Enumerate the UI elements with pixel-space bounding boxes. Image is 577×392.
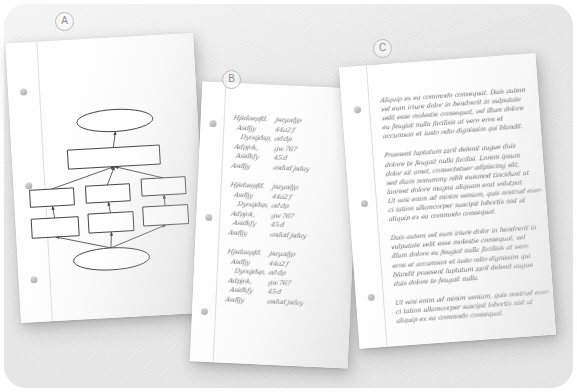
punch-hole <box>368 294 375 301</box>
record-block: Hjsdaepfd.jsayadjpAsdljy44a2 fDyoajdsp,a… <box>231 105 353 167</box>
record-key: Asdljy <box>227 228 247 237</box>
process-right-1 <box>141 177 186 196</box>
record-value: jsayadjp <box>275 116 302 125</box>
record-block: Hjsdaepfd.jsayadjpAsdljy44a2 fDyoajdsp,a… <box>225 239 347 301</box>
record-block: Hjsdaepfd.jsayadjpAsdljy44a2 fDyoajdsp,a… <box>228 172 350 234</box>
record-key: Adpjok, <box>230 209 255 218</box>
punch-hole <box>361 200 368 207</box>
record-key: Adpjok, <box>233 142 258 151</box>
record-value: gw 767 <box>267 278 292 287</box>
record-value: asdad jsday <box>266 297 304 307</box>
document-c-sheet[interactable]: Aliquip ex ea commodo consequat. Duis au… <box>339 53 556 349</box>
record-key: Asdljy <box>230 161 250 170</box>
process-mid-1 <box>85 184 130 203</box>
record-key: Asdljy <box>233 190 253 199</box>
process-top <box>67 145 160 169</box>
record-value: ad dp <box>271 202 290 211</box>
flow-edge <box>110 232 112 248</box>
punch-hole <box>201 308 208 315</box>
record-key: Adpjok, <box>227 276 252 285</box>
record-value: asdad jsday <box>269 230 307 240</box>
record-value: jsayadjp <box>269 250 296 259</box>
record-value: 45 d <box>267 287 282 296</box>
punch-hole <box>209 120 216 127</box>
punch-hole <box>205 214 212 221</box>
process-right-2 <box>143 205 189 226</box>
record-value: 45 d <box>273 154 288 163</box>
paragraph: Duis autem vel eum iriure dolor in hendr… <box>389 224 535 289</box>
record-key: Dyoajdsp, <box>234 267 267 277</box>
paragraph: Praesent luptatum zzril delenit augue du… <box>383 142 530 225</box>
record-value: gw 767 <box>273 144 298 153</box>
handwritten-paragraphs: Aliquip ex ea commodo consequat. Duis au… <box>379 86 538 336</box>
document-b-sheet[interactable]: Hjsdaepfd.jsayadjpAsdljy44a2 fDyoajdsp,a… <box>190 82 361 369</box>
paragraph: Ut wisi enim ad minim veniam, quis nostr… <box>394 289 538 327</box>
record-key: Hjsdaepfd. <box>227 248 263 258</box>
punch-hole <box>354 106 361 113</box>
label-a: A <box>55 12 74 31</box>
record-key: Asdljy <box>230 257 250 266</box>
flow-edge <box>112 131 116 147</box>
record-key: Asidkfy <box>235 152 260 161</box>
record-value: 44a2 f <box>274 125 295 134</box>
record-key: Asdljy <box>224 295 244 304</box>
record-key: Asidkfy <box>232 219 257 228</box>
process-left-2 <box>31 217 79 239</box>
record-value: gw 767 <box>270 211 295 220</box>
record-key: Asidkfy <box>229 286 254 295</box>
record-key: Dyoajdsp, <box>237 200 270 210</box>
record-key: Dyoajdsp, <box>240 133 273 143</box>
start-terminator <box>76 107 153 133</box>
end-terminator <box>73 246 150 272</box>
record-key: Asdljy <box>236 123 256 132</box>
record-value: jsayadjp <box>272 183 299 192</box>
record-row: Hjsdaepfd.jsayadjp <box>233 105 353 120</box>
scene-root: A Hjsdaepfd.jsayadjpAsdljy44a2 fDyoajdsp… <box>0 0 577 392</box>
record-value: 45 d <box>270 221 285 230</box>
record-value: asdad jsday <box>272 163 310 173</box>
paragraph: Aliquip ex ea commodo consequat. Duis au… <box>379 86 524 142</box>
flowchart-diagram <box>5 33 208 323</box>
flow-edge <box>164 195 165 206</box>
process-left-1 <box>30 188 75 207</box>
label-c: C <box>373 39 392 58</box>
record-value: ad dp <box>268 269 287 278</box>
record-key: Hjsdaepfd. <box>230 181 266 191</box>
record-key: Hjsdaepfd. <box>233 114 269 124</box>
flow-edge <box>52 206 54 218</box>
record-value: ad dp <box>274 135 293 144</box>
label-b: B <box>222 70 241 89</box>
record-value: 44a2 f <box>271 192 292 201</box>
record-value: 44a2 f <box>268 259 289 268</box>
process-mid-2 <box>88 212 134 233</box>
handwritten-record-list: Hjsdaepfd.jsayadjpAsdljy44a2 fDyoajdsp,a… <box>224 105 353 311</box>
document-a-sheet[interactable] <box>5 33 208 323</box>
flow-edge <box>108 202 110 213</box>
